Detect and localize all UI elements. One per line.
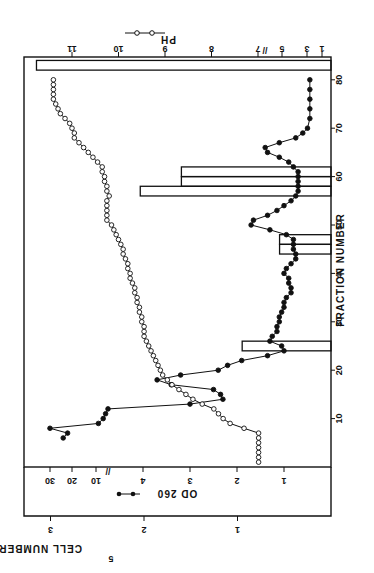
ph-point (51, 82, 56, 87)
od-point (275, 208, 280, 213)
tick-label: 10 (91, 476, 101, 486)
cell-bar (280, 244, 331, 254)
od-point (265, 150, 270, 155)
od-point (291, 237, 296, 242)
ph-legend-marker (135, 31, 140, 36)
ph-point (51, 97, 56, 102)
tick-label: // (262, 45, 268, 55)
ph-point (153, 358, 158, 363)
ph-point (130, 281, 135, 286)
tick-label: 70 (334, 123, 344, 133)
od-point (65, 431, 70, 436)
tick-label: 10 (113, 44, 123, 54)
od-point (286, 160, 291, 165)
ph-point (58, 111, 63, 116)
tick-label: 3 (187, 476, 192, 486)
ph-point (81, 145, 86, 150)
ph-point (126, 261, 131, 266)
tick-label: 3 (304, 44, 309, 54)
ph-point (100, 169, 105, 174)
ph-point (149, 349, 154, 354)
tick-label: 8 (209, 44, 214, 54)
tick-label: 30 (45, 476, 55, 486)
ph-point (165, 378, 170, 383)
od-point (282, 305, 287, 310)
ph-point (142, 324, 147, 329)
ph-point (105, 208, 110, 213)
ph-point (123, 257, 128, 262)
od-point (277, 320, 282, 325)
od-point (296, 174, 301, 179)
tick-label: 2 (234, 476, 239, 486)
od-point (291, 165, 296, 170)
od-legend-marker (117, 492, 122, 497)
ph-point (200, 402, 205, 407)
od-point (155, 378, 160, 383)
ph-point (132, 290, 137, 295)
od-point (239, 358, 244, 363)
ph-point (112, 228, 117, 233)
x-axis-title: FRACTION NUMBER (335, 213, 346, 326)
ph-point (256, 455, 261, 460)
od-point (275, 324, 280, 329)
od-point (305, 126, 310, 131)
ph-point (221, 416, 226, 421)
od-point (293, 257, 298, 262)
tick-label: 60 (334, 172, 344, 182)
axes: 10203040506070807891011531//1234102030//… (45, 31, 344, 535)
ph-point (151, 353, 156, 358)
cell-axis-title: CELL NUMBER X 10 (0, 543, 82, 554)
od-point (308, 97, 313, 102)
ph-point (170, 382, 175, 387)
ph-point (184, 392, 189, 397)
od-point (284, 232, 289, 237)
od-point (263, 145, 268, 150)
od-point (284, 295, 289, 300)
ph-point (67, 121, 72, 126)
od-point (286, 281, 291, 286)
ph-point (139, 315, 144, 320)
od-point (282, 300, 287, 305)
tick-label: 10 (334, 414, 344, 424)
od-point (296, 179, 301, 184)
od-point (293, 136, 298, 141)
od-point (308, 107, 313, 112)
od-point (268, 228, 273, 233)
ph-point (146, 344, 151, 349)
ph-point (212, 407, 217, 412)
ph-point (191, 397, 196, 402)
ph-point (256, 450, 261, 455)
ph-point (128, 271, 133, 276)
ph-point (137, 310, 142, 315)
tick-label: 7 (255, 44, 260, 54)
od-point (296, 184, 301, 189)
ph-point (256, 460, 261, 465)
od-point (216, 368, 221, 373)
ph-point (116, 237, 121, 242)
ph-point (51, 78, 56, 83)
od260-legend-label: OD 260 (157, 488, 197, 499)
od-point (291, 242, 296, 247)
ph-point (128, 276, 133, 281)
ph-point (72, 136, 77, 141)
ph-point (177, 387, 182, 392)
tick-label: 4 (140, 476, 145, 486)
ph-point (139, 320, 144, 325)
ph-point (107, 194, 112, 199)
ph-point (256, 445, 261, 450)
ph-point (121, 247, 126, 252)
tick-label: 1 (281, 476, 286, 486)
ph-point (53, 102, 58, 107)
od-point (293, 194, 298, 199)
od-point (301, 131, 306, 136)
ph-point (105, 184, 110, 189)
ph-point (256, 441, 261, 446)
ph-point (51, 87, 56, 92)
ph-point (105, 213, 110, 218)
od-point (308, 78, 313, 83)
tick-label: 3 (48, 525, 53, 535)
od-point (275, 329, 280, 334)
od260-series (48, 78, 312, 441)
od-point (218, 392, 223, 397)
ph-point (63, 116, 68, 121)
